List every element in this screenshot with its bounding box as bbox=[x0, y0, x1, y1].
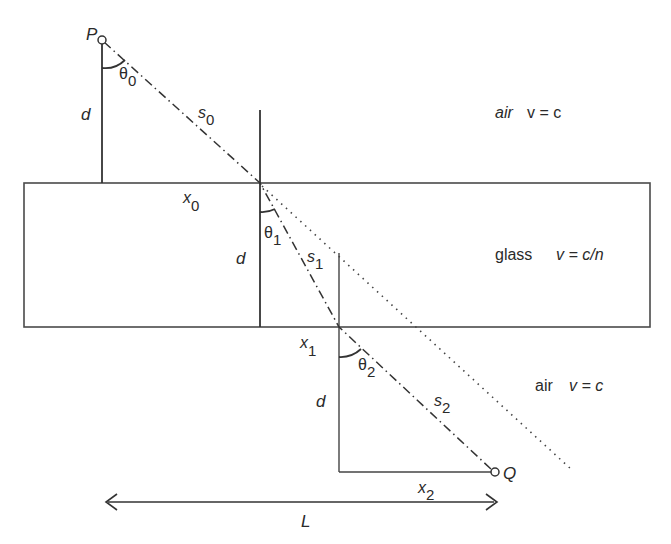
label-s1: s1 bbox=[307, 248, 323, 272]
angle-arc-theta1 bbox=[260, 209, 275, 212]
label-region-glass-velocity: v = c/n bbox=[556, 246, 604, 263]
label-region-bottom-name: air bbox=[535, 377, 553, 394]
refraction-diagram: P Q θ0 s0 d air v = c x0 θ1 d s1 glass v… bbox=[0, 0, 671, 544]
label-region-top-velocity: v = c bbox=[527, 104, 561, 121]
label-theta2: θ2 bbox=[358, 356, 375, 380]
label-d-glass: d bbox=[236, 249, 246, 268]
label-theta1: θ1 bbox=[264, 224, 281, 248]
point-p-marker bbox=[98, 36, 106, 44]
label-region-bottom-velocity: v = c bbox=[569, 377, 603, 394]
label-d-top: d bbox=[81, 105, 91, 124]
label-x2: x2 bbox=[417, 479, 434, 503]
label-region-glass-name: glass bbox=[495, 246, 532, 263]
point-q-marker bbox=[491, 468, 499, 476]
label-length-l: L bbox=[301, 512, 310, 531]
label-s0: s0 bbox=[198, 104, 214, 128]
label-q: Q bbox=[503, 464, 516, 483]
label-x1: x1 bbox=[299, 334, 316, 359]
label-x0: x0 bbox=[182, 189, 199, 214]
label-s2: s2 bbox=[434, 392, 450, 416]
label-p: P bbox=[86, 25, 98, 44]
straight-line-path bbox=[262, 186, 572, 470]
label-region-top-name: air bbox=[495, 104, 513, 121]
label-d-bottom: d bbox=[316, 392, 326, 411]
